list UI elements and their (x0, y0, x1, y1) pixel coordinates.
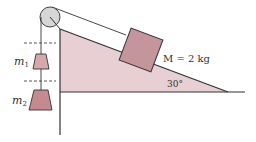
label-block-mass: M = 2 kg (163, 53, 211, 64)
mass-m2 (29, 90, 52, 110)
label-m2: m2 (12, 94, 27, 108)
label-m1: m1 (14, 55, 29, 69)
physics-diagram: m1 m2 M = 2 kg 30° (0, 0, 256, 142)
label-angle: 30° (167, 79, 183, 89)
mass-m1 (33, 54, 49, 69)
